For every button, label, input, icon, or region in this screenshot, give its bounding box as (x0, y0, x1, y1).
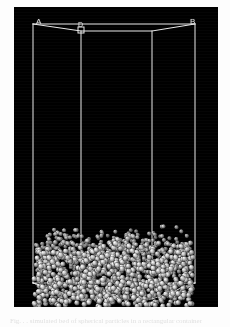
edge-corner-tick-left (33, 283, 81, 299)
figure-caption: Fig. . . simulated bed of spherical part… (10, 317, 226, 326)
edge-front-top (33, 24, 195, 31)
figure-root: A D B Fig. . . simulated bed of spherica… (0, 0, 230, 327)
wireframe-box (14, 7, 218, 307)
vertex-label-a: A (36, 18, 41, 26)
render-viewport: A D B (14, 7, 218, 307)
vertex-label-d: D (78, 21, 83, 29)
vertex-label-b: B (190, 18, 195, 26)
